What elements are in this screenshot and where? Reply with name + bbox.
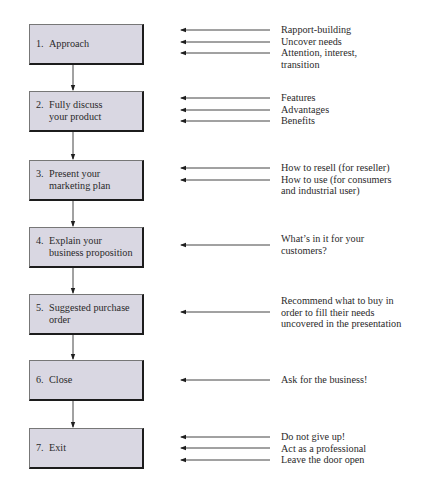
step-number: 5. [36,302,49,325]
note: Recommend what to buy in order to fill t… [281,295,401,330]
note: Uncover needs [281,36,357,48]
step-label: Fully discuss your product [49,99,103,122]
step-label: Suggested purchase order [49,302,130,325]
step-2-notes: Features Advantages Benefits [281,92,329,127]
step-box-3: 3.Present your marketing plan [29,160,144,201]
note: Features [281,92,329,104]
step-number: 4. [36,235,49,258]
step-label: Close [49,374,72,386]
note: What’s in it for your customers? [281,233,364,256]
step-label: Approach [49,38,89,50]
step-3-notes: How to resell (for reseller) How to use … [281,162,391,197]
step-label: Explain your business proposition [49,235,133,258]
step-box-6: 6.Close [29,360,144,401]
step-number: 7. [36,442,49,454]
step-box-2: 2.Fully discuss your product [29,91,144,132]
note: How to resell (for reseller) [281,162,391,174]
note: Advantages [281,104,329,116]
step-label: Exit [49,442,66,454]
step-4-notes: What’s in it for your customers? [281,233,364,256]
step-6-notes: Ask for the business! [281,374,367,386]
note: Ask for the business! [281,374,367,386]
note: Act as a professional [281,443,366,455]
note: Leave the door open [281,454,366,466]
note: Benefits [281,115,329,127]
note: Attention, interest, transition [281,47,357,70]
note: How to use (for consumers and industrial… [281,174,391,197]
step-box-7: 7.Exit [29,428,144,469]
step-7-notes: Do not give up! Act as a professional Le… [281,431,366,466]
note: Do not give up! [281,431,366,443]
step-number: 6. [36,374,49,386]
step-label: Present your marketing plan [49,168,110,191]
step-box-4: 4.Explain your business proposition [29,227,144,268]
note: Rapport-building [281,24,357,36]
step-number: 2. [36,99,49,122]
step-box-5: 5.Suggested purchase order [29,294,144,335]
step-1-notes: Rapport-building Uncover needs Attention… [281,24,357,70]
step-5-notes: Recommend what to buy in order to fill t… [281,295,401,330]
step-number: 3. [36,168,49,191]
step-number: 1. [36,38,49,50]
step-box-1: 1.Approach [29,24,144,65]
